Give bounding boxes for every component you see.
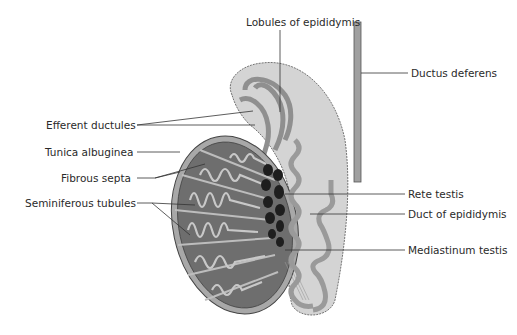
label-duct-of-epididymis: Duct of epididymis — [408, 208, 507, 220]
label-mediastinum-testis: Mediastinum testis — [408, 244, 507, 256]
label-fibrous-septa: Fibrous septa — [61, 172, 131, 184]
ductus-deferens — [354, 22, 361, 182]
diagram-artwork — [0, 0, 517, 335]
label-efferent-ductules: Efferent ductules — [46, 119, 136, 131]
label-ductus-deferens: Ductus deferens — [411, 67, 497, 79]
label-lobules-of-epididymis: Lobules of epididymis — [246, 16, 360, 28]
label-rete-testis: Rete testis — [408, 188, 464, 200]
testis-diagram: Lobules of epididymis Ductus deferens Ef… — [0, 0, 517, 335]
label-seminiferous-tubules: Seminiferous tubules — [25, 197, 136, 209]
label-tunica-albuginea: Tunica albuginea — [45, 146, 133, 158]
